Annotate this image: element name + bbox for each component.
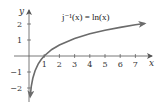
- y-axis-label: y: [18, 6, 25, 16]
- x-tick-label: 6: [118, 60, 123, 69]
- x-tick-label: 3: [72, 60, 77, 69]
- chart: 1 2 3 4 5 6 7 2 1 −1 −2 x y j⁻¹(x) = ln(…: [0, 0, 161, 107]
- y-tick-label: 1: [17, 36, 22, 45]
- x-tick-label: 2: [57, 60, 62, 69]
- x-tick-label: 4: [87, 60, 92, 69]
- x-tick-label: 5: [102, 60, 107, 69]
- y-tick-label: 2: [17, 20, 22, 29]
- x-tick-label: 1: [42, 60, 47, 69]
- y-tick-label: −1: [10, 68, 22, 77]
- x-tick-label: 7: [133, 60, 138, 69]
- x-axis-label: x: [149, 58, 154, 68]
- function-label: j⁻¹(x) = ln(x): [61, 12, 110, 22]
- y-tick-label: −2: [10, 84, 22, 93]
